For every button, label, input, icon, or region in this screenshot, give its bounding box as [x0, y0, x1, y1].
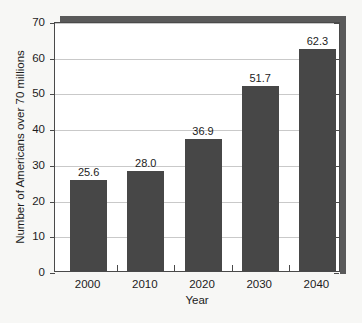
chart-page: Number of Americans over 70 millions 25.… — [0, 0, 362, 323]
y-tick-mark — [334, 166, 339, 167]
x-tick-mark — [117, 265, 118, 271]
y-tick-label: 50 — [0, 87, 45, 99]
bar-value-label: 51.7 — [230, 72, 291, 84]
x-tick-label: 2010 — [114, 278, 175, 290]
bar — [185, 139, 222, 271]
x-tick-mark — [174, 265, 175, 271]
bar — [127, 171, 164, 271]
x-axis-title: Year — [54, 294, 340, 306]
y-tick-mark — [50, 273, 55, 274]
x-tick-mark — [232, 265, 233, 271]
bar — [70, 180, 107, 271]
y-tick-mark — [334, 59, 339, 60]
x-tick-label: 2020 — [172, 278, 233, 290]
plot-area: 25.628.036.951.762.3 — [54, 22, 340, 272]
x-tick-label: 2040 — [286, 278, 347, 290]
y-tick-mark — [50, 130, 55, 131]
y-tick-mark — [50, 202, 55, 203]
y-tick-mark — [334, 94, 339, 95]
y-tick-mark — [50, 237, 55, 238]
y-tick-mark — [50, 23, 55, 24]
plot-frame-right-shadow — [340, 16, 346, 274]
y-tick-label: 40 — [0, 123, 45, 135]
bars-layer: 25.628.036.951.762.3 — [55, 23, 339, 271]
x-tick-label: 2000 — [57, 278, 118, 290]
y-tick-mark — [334, 202, 339, 203]
y-tick-label: 0 — [0, 266, 45, 278]
bar-value-label: 62.3 — [287, 35, 348, 47]
bar-value-label: 36.9 — [173, 125, 234, 137]
y-tick-mark — [50, 94, 55, 95]
y-tick-mark — [334, 23, 339, 24]
y-tick-mark — [50, 166, 55, 167]
y-tick-mark — [334, 130, 339, 131]
y-tick-label: 60 — [0, 52, 45, 64]
x-tick-mark — [289, 265, 290, 271]
x-tick-label: 2030 — [229, 278, 290, 290]
y-tick-mark — [334, 273, 339, 274]
bar-value-label: 28.0 — [115, 157, 176, 169]
bar — [242, 86, 279, 271]
bar-value-label: 25.6 — [58, 166, 119, 178]
y-tick-mark — [334, 237, 339, 238]
y-tick-label: 20 — [0, 195, 45, 207]
y-tick-label: 10 — [0, 230, 45, 242]
y-tick-label: 30 — [0, 159, 45, 171]
y-tick-mark — [50, 59, 55, 60]
y-tick-label: 70 — [0, 16, 45, 28]
bar — [299, 49, 336, 272]
